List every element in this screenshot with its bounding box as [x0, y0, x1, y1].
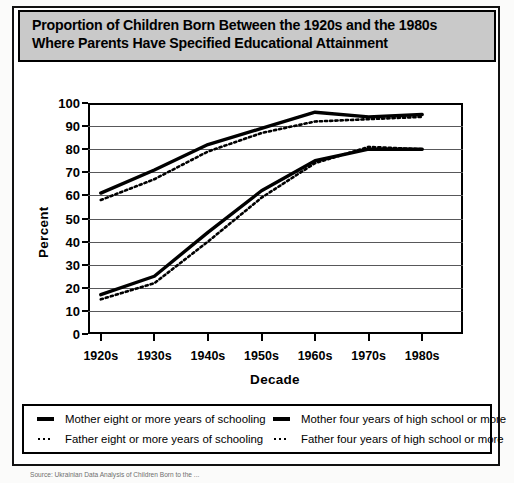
chart-title-banner: Proportion of Children Born Between the … [18, 10, 496, 62]
source-note: Source: Ukrainian Data Analysis of Child… [30, 471, 480, 481]
y-axis-tick-label: 100 [48, 97, 80, 110]
x-axis-tick-label: 1970s [339, 350, 399, 363]
data-series-layer [88, 103, 463, 334]
chart-container: 0102030405060708090100 1920s1930s1940s19… [0, 62, 514, 397]
y-axis-tick-label: 90 [48, 120, 80, 133]
y-axis-tick-label: 10 [48, 305, 80, 318]
legend-item[interactable]: Father four years of high school or more [272, 433, 504, 445]
x-axis-tick-mark [100, 334, 102, 341]
legend-solid-line-icon [272, 413, 292, 425]
x-axis-tick-mark [368, 334, 370, 341]
x-axis-tick-label: 1930s [124, 350, 184, 363]
legend-item[interactable]: Mother four years of high school or more [272, 413, 506, 425]
x-axis-tick-mark [207, 334, 209, 341]
x-axis-tick-mark [421, 334, 423, 341]
chart-page: Proportion of Children Born Between the … [0, 0, 514, 483]
legend-item-label: Mother four years of high school or more [301, 413, 506, 425]
legend-item-label: Father four years of high school or more [301, 433, 504, 445]
y-axis-tick-label: 70 [48, 166, 80, 179]
y-axis-tick-label: 30 [48, 259, 80, 272]
x-axis-tick-mark [314, 334, 316, 341]
legend-item[interactable]: Mother eight or more years of schooling [36, 413, 266, 425]
y-axis-title: Percent [36, 206, 51, 258]
page-title-line2: Where Parents Have Specified Educational… [32, 35, 484, 53]
legend-dotted-line-icon [36, 433, 56, 445]
legend-item-label: Mother eight or more years of schooling [65, 413, 266, 425]
chart-legend: Mother eight or more years of schoolingM… [22, 404, 492, 454]
y-axis-tick-label: 20 [48, 282, 80, 295]
legend-item[interactable]: Father eight or more years of schooling [36, 433, 263, 445]
x-axis-tick-mark [153, 334, 155, 341]
page-title: Proportion of Children Born Between the … [32, 17, 484, 35]
y-axis-tick-label: 40 [48, 236, 80, 249]
x-axis-title: Decade [215, 372, 335, 387]
x-axis-tick-mark [261, 334, 263, 341]
y-axis-tick-label: 80 [48, 143, 80, 156]
x-axis-tick-label: 1980s [392, 350, 452, 363]
x-axis-tick-label: 1950s [232, 350, 292, 363]
legend-item-label: Father eight or more years of schooling [65, 433, 263, 445]
y-axis-tick-label: 60 [48, 189, 80, 202]
x-axis-tick-label: 1960s [285, 350, 345, 363]
legend-solid-line-icon [36, 413, 56, 425]
x-axis-tick-label: 1940s [178, 350, 238, 363]
y-axis-tick-label: 50 [48, 213, 80, 226]
x-axis-tick-label: 1920s [71, 350, 131, 363]
y-axis-tick-label: 0 [48, 328, 80, 341]
legend-dotted-line-icon [272, 433, 292, 445]
